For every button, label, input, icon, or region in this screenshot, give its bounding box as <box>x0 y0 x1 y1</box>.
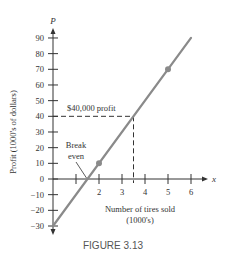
y-tick-label: 90 <box>36 33 45 43</box>
annotation-profit: $40,000 profit <box>67 103 116 113</box>
x-axis-symbol: x <box>211 174 216 184</box>
y-tick-label: 10 <box>36 158 45 168</box>
y-tick-label: 20 <box>36 143 45 153</box>
x-tick-label: 5 <box>166 187 170 197</box>
annotation-break-line1: Break <box>66 140 87 150</box>
profit-line-segment <box>53 38 191 226</box>
profit-line <box>53 38 191 226</box>
y-tick-label: −30 <box>31 221 44 231</box>
y-tick-label: 60 <box>36 80 45 90</box>
y-tick-label: 30 <box>36 127 45 137</box>
y-axis-arrow-up-icon <box>51 28 56 34</box>
data-point-marker <box>165 66 171 72</box>
figure-caption: FIGURE 3.13 <box>83 240 143 251</box>
y-axis-label: Profit (1000's of dollars) <box>8 90 18 174</box>
data-point-marker <box>96 160 102 166</box>
x-tick-label: 2 <box>97 187 101 197</box>
x-tick-label: 3 <box>120 187 124 197</box>
x-axis-label-line1: Number of tires sold <box>105 204 176 214</box>
y-tick-label: 50 <box>36 96 45 106</box>
x-axis-arrow-icon <box>202 177 208 182</box>
profit-chart: 9080706050403020100−10−20−3023456 P x Pr… <box>0 0 235 264</box>
y-tick-label: 40 <box>36 111 45 121</box>
x-tick-label: 6 <box>189 187 193 197</box>
x-axis-label-line2: (1000's) <box>126 215 154 225</box>
x-tick-label: 4 <box>143 187 148 197</box>
y-tick-label: 70 <box>36 64 45 74</box>
annotation-break-line2: even <box>68 151 85 161</box>
y-tick-label: −10 <box>31 190 44 200</box>
y-tick-label: 80 <box>36 49 45 59</box>
y-tick-label: −20 <box>31 205 44 215</box>
break-even-pointer <box>76 162 87 178</box>
y-tick-label: 0 <box>40 174 44 184</box>
y-axis-arrow-down-icon <box>51 229 56 235</box>
y-axis-symbol: P <box>49 16 56 26</box>
